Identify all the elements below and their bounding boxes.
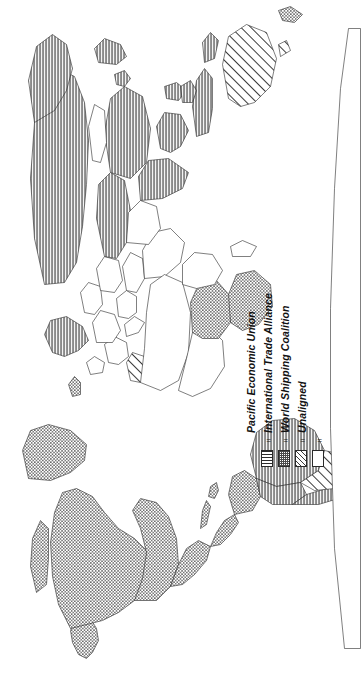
legend-equals-sign: =: [260, 435, 277, 447]
region-china[interactable]: [104, 86, 150, 178]
diagonal-hatch-swatch-icon: [295, 450, 307, 467]
legend-equals-sign: =: [277, 435, 294, 447]
blank-swatch-icon: [312, 450, 324, 467]
dotted-grid-swatch-icon: [278, 450, 290, 467]
legend-equals-sign: =: [294, 435, 311, 447]
legend: Pacific Economic Union = International T…: [259, 262, 335, 467]
map-figure: Pacific Economic Union = International T…: [0, 0, 363, 688]
legend-label: World Shipping Coalition: [277, 305, 294, 433]
legend-entry-world-shipping-coalition[interactable]: World Shipping Coalition =: [294, 262, 311, 467]
legend-label: Unaligned: [294, 381, 311, 433]
legend-label: International Trade Alliance: [260, 293, 277, 433]
legend-label: Pacific Economic Union: [243, 311, 260, 433]
horizontal-lines-swatch-icon: [261, 450, 273, 467]
legend-equals-sign: =: [311, 435, 328, 447]
legend-entry-unaligned[interactable]: Unaligned =: [311, 262, 328, 467]
legend-label-wrap: Unaligned: [311, 263, 328, 433]
